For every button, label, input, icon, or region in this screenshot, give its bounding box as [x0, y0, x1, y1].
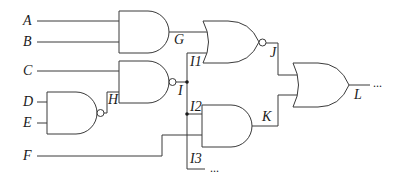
inverter-bubble-j	[259, 39, 266, 46]
label-g: G	[174, 33, 184, 47]
label-a: A	[23, 14, 32, 28]
label-h: H	[108, 93, 118, 107]
label-i: I	[178, 84, 183, 98]
or-gate-l	[293, 63, 349, 107]
label-i2: I2	[190, 100, 202, 114]
label-d: D	[23, 95, 33, 109]
label-b: B	[23, 35, 32, 49]
and-gate-k	[202, 105, 252, 147]
label-i3: I3	[190, 152, 202, 166]
ellipsis-i3: ...	[210, 162, 219, 174]
nand-gate-i	[119, 61, 169, 103]
junction-dot-i	[185, 80, 189, 84]
and-gate-g	[119, 11, 169, 53]
label-i1: I1	[190, 55, 202, 69]
inverter-bubble-h	[97, 110, 104, 117]
logic-circuit-diagram: A B C D E F G H I I1 I2 I3 J K L ... ...	[0, 0, 401, 178]
ellipsis-l: ...	[373, 77, 382, 89]
label-j: J	[270, 46, 276, 60]
label-l: L	[354, 88, 362, 102]
label-c: C	[23, 64, 32, 78]
label-e: E	[23, 116, 32, 130]
junction-dot-i2	[185, 112, 189, 116]
label-f: F	[23, 149, 32, 163]
inverter-bubble-i	[169, 79, 176, 86]
wire-k	[252, 95, 297, 126]
wire-f	[37, 135, 202, 156]
nor-gate-j	[203, 21, 259, 63]
nand-gate-h	[47, 92, 97, 134]
label-k: K	[262, 110, 271, 124]
